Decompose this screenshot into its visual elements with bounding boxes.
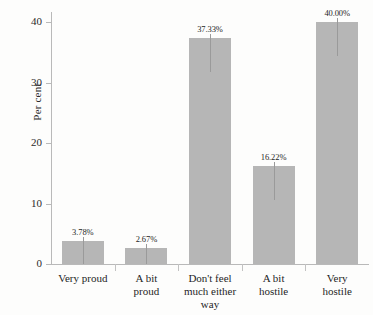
category-label-line: Very hostile <box>319 272 355 298</box>
bar-value-label: 37.33% <box>197 24 223 34</box>
y-axis-tick-label: 10 <box>10 197 42 209</box>
category-label-line: much either <box>184 285 236 298</box>
y-axis-tick <box>46 143 52 144</box>
x-axis-category-label: Very hostile <box>319 272 355 298</box>
value-leader-line <box>274 162 275 200</box>
y-axis-tick-label: 20 <box>10 136 42 148</box>
category-label-line: A bit <box>134 272 160 285</box>
x-axis-category-label: Very proud <box>58 272 107 285</box>
bar-value-label: 16.22% <box>261 152 287 162</box>
y-axis-tick <box>46 204 52 205</box>
bar-value-label: 2.67% <box>136 234 157 244</box>
x-axis-line <box>51 264 369 265</box>
y-axis-tick-label: 0 <box>10 257 42 269</box>
value-leader-line <box>337 18 338 56</box>
category-label-line: Very proud <box>58 272 107 285</box>
x-axis-category-label: A bithostile <box>259 272 288 298</box>
y-axis-tick <box>46 83 52 84</box>
bar <box>316 22 358 264</box>
category-label-line: A bit <box>259 272 288 285</box>
value-leader-line <box>210 34 211 72</box>
x-axis-tick <box>115 264 116 271</box>
x-axis-tick <box>178 264 179 271</box>
bar-value-label: 3.78% <box>72 227 93 237</box>
value-leader-line <box>83 237 84 264</box>
x-axis-category-label: A bitproud <box>134 272 160 298</box>
y-axis-tick <box>46 22 52 23</box>
x-axis-tick <box>242 264 243 271</box>
y-axis-tick-label: 30 <box>10 76 42 88</box>
category-label-line: way <box>184 298 236 311</box>
y-axis-tick-label: 40 <box>10 15 42 27</box>
y-axis-tick <box>46 264 52 265</box>
category-label-line: Don't feel <box>184 272 236 285</box>
category-label-line: proud <box>134 285 160 298</box>
category-label-line: hostile <box>259 285 288 298</box>
x-axis-tick <box>305 264 306 271</box>
y-axis-line <box>51 12 52 265</box>
bar-value-label: 40.00% <box>324 8 350 18</box>
bar-chart: Per cent 403020100 3.78%Very proud2.67%A… <box>0 0 373 315</box>
x-axis-category-label: Don't feelmuch eitherway <box>184 272 236 311</box>
value-leader-line <box>146 244 147 264</box>
